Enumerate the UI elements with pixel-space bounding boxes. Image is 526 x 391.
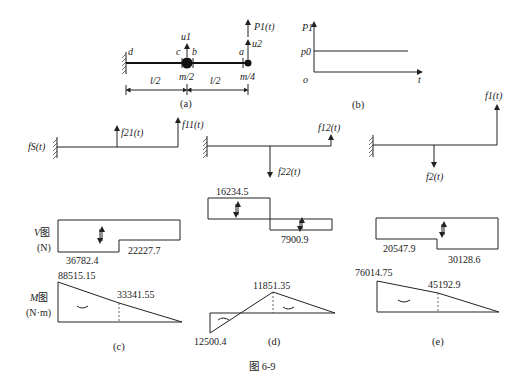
fixed-support-icon bbox=[122, 52, 126, 74]
moment-e-left: 76014.75 bbox=[355, 267, 393, 278]
moment-c-mid: 33341.55 bbox=[117, 289, 155, 300]
load-label: P1(t) bbox=[253, 21, 275, 33]
point-b: b bbox=[192, 46, 197, 57]
origin-label: o bbox=[303, 74, 308, 85]
shear-c-right: 22227.7 bbox=[128, 245, 161, 256]
moment-c-left: 88515.15 bbox=[58, 270, 96, 281]
figure-caption: 图 6-9 bbox=[249, 361, 276, 372]
shear-e-left: 20547.9 bbox=[383, 243, 416, 254]
mass-label-m4: m/4 bbox=[240, 71, 255, 82]
fixed-support-icon bbox=[203, 136, 207, 158]
u2-label: u1 bbox=[181, 31, 191, 42]
moment-e-mid: 45192.9 bbox=[428, 279, 461, 290]
label-b: (b) bbox=[352, 99, 365, 111]
point-a: a bbox=[239, 46, 244, 57]
span-left: l/2 bbox=[150, 75, 161, 86]
shear-diagram-e: 20547.9 30128.6 bbox=[376, 218, 498, 265]
shear-d-right: 7900.9 bbox=[281, 234, 309, 245]
m-diagram-unit: (N·m) bbox=[26, 307, 51, 319]
y-axis-label: P1 bbox=[301, 22, 313, 33]
f2-label: f2(t) bbox=[426, 171, 444, 183]
shear-diagram-c: 36782.4 22227.7 bbox=[58, 220, 180, 266]
span-right: l/2 bbox=[210, 75, 221, 86]
p0-label: p0 bbox=[300, 46, 311, 57]
f11-label: f11(t) bbox=[182, 119, 204, 131]
fs-label: fS(t) bbox=[28, 141, 46, 153]
shear-diagram-d: 16234.5 7900.9 bbox=[208, 186, 332, 245]
moment-diagram-d: 11851.35 12500.4 bbox=[194, 280, 335, 347]
panel-b-load-graph: P1 p0 o t (b) bbox=[300, 22, 421, 111]
moment-diagram-c: 88515.15 33341.55 bbox=[58, 270, 182, 322]
figure-6-9: d c b a u1 u2 P1(t) m/2 m/4 l/2 l/2 (a) … bbox=[0, 0, 526, 391]
label-c: (c) bbox=[113, 341, 125, 353]
label-a: (a) bbox=[180, 98, 192, 110]
f22-label: f22(t) bbox=[278, 166, 301, 178]
fbd-c: fS(t) f21(t) f11(t) bbox=[28, 119, 204, 159]
m-diagram-title: M图 bbox=[29, 292, 48, 303]
label-d: (d) bbox=[268, 336, 281, 348]
mass-m2 bbox=[182, 58, 193, 69]
v-diagram-title: V图 bbox=[34, 227, 50, 238]
fbd-e: f1(t) f2(t) bbox=[369, 90, 503, 183]
v-diagram-unit: (N) bbox=[37, 242, 51, 254]
f12-label: f12(t) bbox=[318, 122, 341, 134]
f21-label: f21(t) bbox=[121, 127, 144, 139]
label-e: (e) bbox=[432, 336, 444, 348]
point-d: d bbox=[128, 46, 134, 57]
point-c: c bbox=[176, 46, 181, 57]
mass-label-m2: m/2 bbox=[179, 71, 194, 82]
t-label: t bbox=[418, 74, 421, 85]
moment-d-left: 12500.4 bbox=[194, 336, 227, 347]
u1-label: u2 bbox=[252, 38, 262, 49]
fbd-d: f12(t) f22(t) bbox=[203, 122, 341, 178]
moment-d-peak: 11851.35 bbox=[253, 280, 290, 291]
shear-c-left: 36782.4 bbox=[66, 255, 99, 266]
shear-e-right: 30128.6 bbox=[448, 254, 481, 265]
fixed-support-icon bbox=[369, 135, 373, 157]
panel-a-beam: d c b a u1 u2 P1(t) m/2 m/4 l/2 l/2 (a) bbox=[122, 21, 275, 110]
mass-m4 bbox=[245, 60, 252, 67]
moment-diagram-e: 76014.75 45192.9 bbox=[355, 267, 499, 312]
f1-label: f1(t) bbox=[485, 90, 503, 102]
shear-d-left: 16234.5 bbox=[216, 186, 249, 197]
fixed-support-icon bbox=[53, 137, 57, 159]
